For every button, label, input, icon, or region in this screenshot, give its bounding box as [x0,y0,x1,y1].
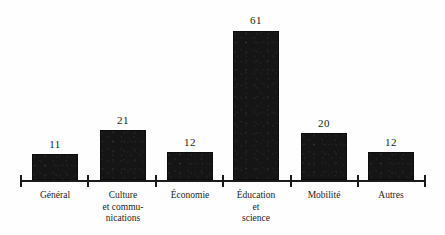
category-label-economie: Économie [152,190,228,202]
value-label-economie: 12 [167,136,213,148]
category-label-mobilite: Mobilité [286,190,362,202]
bar-mobilite [301,133,347,180]
axis-tick-0 [20,175,22,187]
axis-tick-1 [87,175,89,187]
category-label-culture-communications: Culture et commu- nications [85,190,161,225]
category-label-line: nications [85,213,161,225]
category-label-education-science: Éducation et science [218,190,294,225]
axis-tick-3 [222,175,224,187]
bar-chart: 11 Général 21 Culture et commu- nication… [0,0,445,235]
category-label-line: Mobilité [286,190,362,202]
value-label-mobilite: 20 [301,117,347,129]
axis-tick-2 [155,175,157,187]
value-label-autres: 12 [368,136,414,148]
value-label-culture-communications: 21 [100,114,146,126]
bar-economie [167,152,213,180]
category-label-line: et [218,202,294,214]
axis-tick-4 [290,175,292,187]
category-label-line: science [218,213,294,225]
category-label-line: Culture [85,190,161,202]
bar-education-science [233,31,279,180]
value-label-education-science: 61 [233,14,279,26]
category-label-line: Autres [353,190,429,202]
value-label-general: 11 [32,138,78,150]
category-label-line: Éducation [218,190,294,202]
bar-autres [368,152,414,180]
category-label-line: Général [17,190,93,202]
category-label-autres: Autres [353,190,429,202]
category-label-line: et commu- [85,202,161,214]
axis-tick-6 [424,175,426,187]
axis-tick-5 [357,175,359,187]
bar-culture-communications [100,130,146,180]
bar-general [32,154,78,180]
category-label-general: Général [17,190,93,202]
category-label-line: Économie [152,190,228,202]
plot-area: 11 Général 21 Culture et commu- nication… [0,0,445,235]
